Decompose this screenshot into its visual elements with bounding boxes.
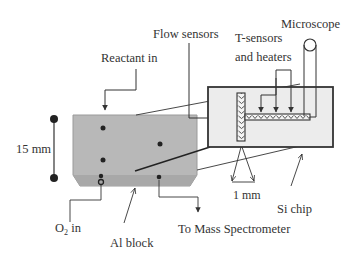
si-chip-label: Si chip (277, 202, 312, 216)
al-block (73, 115, 210, 186)
t-sensors-label-line2: and heaters (235, 50, 292, 64)
microreactor-setup-diagram: 15 mm Reactant in Flow sensors T-sensors… (0, 0, 349, 261)
flow-sensors-label: Flow sensors (153, 27, 219, 41)
microscope-label: Microscope (281, 17, 340, 31)
dimension-1mm-label: 1 mm (233, 188, 261, 202)
port-dot (101, 126, 106, 131)
dimension-15mm-label: 15 mm (16, 142, 51, 156)
dimension-15mm: 15 mm (16, 115, 58, 182)
si-chip-callout: Si chip (277, 154, 312, 216)
port-dot (158, 142, 163, 147)
t-sensors-label-line1: T-sensors (235, 31, 283, 45)
dimension-1mm: 1 mm (232, 147, 261, 202)
port-dot (101, 158, 106, 163)
o2-in-callout: O2 in (55, 185, 101, 237)
heater-strip (245, 114, 310, 120)
al-block-callout: Al block (110, 188, 154, 250)
port-dot (157, 175, 162, 180)
o2-in-label: O2 in (55, 221, 82, 237)
al-block-label: Al block (110, 236, 154, 250)
reactant-in-label: Reactant in (101, 51, 158, 65)
mass-spectrometer-callout: To Mass Spectrometer (159, 180, 291, 236)
reactant-in-callout: Reactant in (101, 51, 158, 110)
vertical-flow-sensor (237, 93, 245, 141)
mass-spectrometer-label: To Mass Spectrometer (178, 222, 291, 236)
